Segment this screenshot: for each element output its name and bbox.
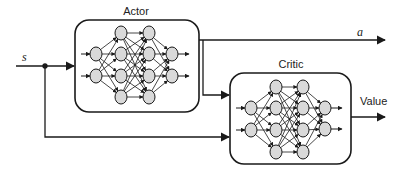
neuron-node bbox=[297, 123, 309, 137]
neuron-node bbox=[115, 90, 127, 104]
neuron-node bbox=[143, 26, 155, 40]
critic-title: Critic bbox=[278, 58, 304, 70]
actor-to-critic-line bbox=[203, 40, 229, 95]
neuron-node bbox=[143, 69, 155, 83]
neuron-node bbox=[115, 47, 127, 61]
neuron-node bbox=[90, 69, 102, 83]
neuron-node bbox=[270, 123, 282, 137]
neuron-node bbox=[166, 47, 178, 61]
actor-critic-diagram: s a Actor Critic Value bbox=[0, 0, 402, 173]
neuron-node bbox=[319, 101, 331, 115]
neuron-node bbox=[297, 101, 309, 115]
neuron-node bbox=[319, 122, 331, 136]
input-label-s: s bbox=[22, 50, 27, 64]
neuron-node bbox=[90, 47, 102, 61]
neuron-node bbox=[115, 69, 127, 83]
neuron-node bbox=[270, 80, 282, 94]
neuron-node bbox=[297, 145, 309, 159]
neuron-node bbox=[143, 47, 155, 61]
neuron-node bbox=[270, 145, 282, 159]
neuron-node bbox=[270, 101, 282, 115]
action-label-a: a bbox=[357, 25, 363, 39]
neuron-node bbox=[297, 80, 309, 94]
neuron-node bbox=[115, 26, 127, 40]
actor-title: Actor bbox=[123, 5, 149, 17]
neuron-node bbox=[245, 101, 257, 115]
neuron-node bbox=[166, 69, 178, 83]
value-label: Value bbox=[360, 95, 387, 107]
neuron-node bbox=[245, 123, 257, 137]
neuron-node bbox=[143, 90, 155, 104]
